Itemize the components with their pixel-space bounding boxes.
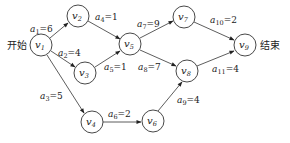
start-label: 开始: [7, 39, 27, 51]
edge-label-a3: a3=5: [40, 91, 63, 103]
aoe-network-diagram: a1=6 a2=4 a3=5 a4=1 a5=1 a6=2 a7=9 a8=7: [0, 0, 290, 143]
edge-a10: a10=2: [194, 15, 237, 40]
edge-label-a10: a10=2: [210, 15, 237, 27]
node-v2: v2: [67, 5, 89, 27]
edge-a9: a9=4: [158, 82, 200, 111]
edge-label-a9: a9=4: [177, 95, 200, 107]
node-v3: v3: [74, 62, 96, 84]
edge-label-a4: a4=1: [95, 12, 118, 24]
edge-a3: a3=5: [40, 55, 84, 113]
diagram-svg: a1=6 a2=4 a3=5 a4=1 a5=1 a6=2 a7=9 a8=7: [0, 0, 290, 143]
edge-label-a11: a11=4: [212, 64, 239, 76]
node-v1: v1: [30, 34, 52, 56]
node-v8: v8: [176, 60, 198, 82]
edge-a2: a2=4: [51, 48, 81, 67]
edge-a6: a6=2: [103, 109, 141, 122]
node-v5: v5: [119, 33, 141, 55]
edge-a8: a8=7: [138, 50, 176, 74]
node-v9: v9: [234, 34, 256, 56]
node-v6: v6: [142, 110, 164, 132]
node-v4: v4: [81, 111, 103, 133]
edge-label-a5: a5=1: [104, 62, 127, 74]
edge-label-a6: a6=2: [108, 109, 131, 121]
edge-label-a8: a8=7: [138, 62, 161, 74]
edge-a4: a4=1: [88, 12, 120, 39]
node-v7: v7: [173, 6, 195, 28]
edge-a11: a11=4: [197, 51, 239, 76]
edge-a5: a5=1: [95, 51, 127, 74]
end-label: 结束: [260, 39, 280, 51]
edge-a7: a7=9: [137, 19, 173, 38]
